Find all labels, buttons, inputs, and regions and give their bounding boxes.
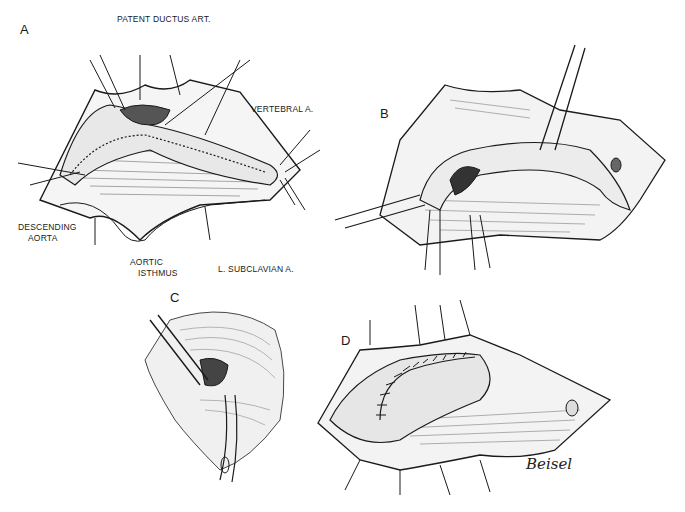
panel-label-a: A: [20, 22, 29, 37]
panel-c-drawing: [145, 312, 284, 482]
panel-a-drawing: [18, 55, 320, 245]
panel-label-d: D: [341, 333, 350, 348]
label-descending-aorta-line1: DESCENDING: [18, 222, 77, 232]
label-patent-ductus: PATENT DUCTUS ART.: [117, 14, 211, 24]
label-subclavian-artery: L. SUBCLAVIAN A.: [218, 264, 294, 274]
label-aortic-isthmus-line2: ISTHMUS: [138, 268, 178, 278]
artist-signature: Beisel: [526, 455, 572, 473]
panel-label-b: B: [380, 106, 389, 121]
panel-label-c: C: [170, 290, 179, 305]
panel-b-drawing: [335, 45, 665, 275]
surgical-illustration: [0, 0, 685, 512]
label-vertebral-artery: VERTEBRAL A.: [251, 104, 313, 114]
label-aortic-isthmus-line1: AORTIC: [130, 257, 163, 267]
label-descending-aorta-line2: AORTA: [28, 233, 58, 243]
